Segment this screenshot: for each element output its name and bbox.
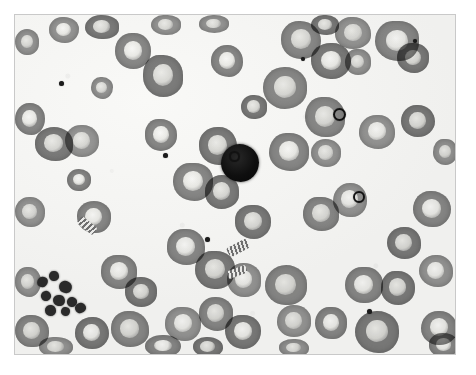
image-caption <box>0 0 1 1</box>
erythrocyte <box>397 43 429 73</box>
platelet <box>57 279 74 296</box>
erythrocyte <box>429 333 455 354</box>
erythrocyte <box>335 17 371 49</box>
erythrocyte <box>151 15 181 35</box>
inclusion-body <box>413 39 417 43</box>
inclusion-body <box>353 191 365 203</box>
erythrocyte <box>387 227 421 259</box>
erythrocyte <box>15 197 45 227</box>
erythrocyte <box>265 265 307 305</box>
erythrocyte <box>381 271 415 305</box>
erythrocyte <box>65 125 99 157</box>
inclusion-body <box>333 108 346 121</box>
image-viewport <box>0 0 476 375</box>
platelet <box>74 301 88 314</box>
erythrocyte <box>315 307 347 339</box>
erythrocyte <box>413 191 451 227</box>
erythrocyte <box>145 119 177 151</box>
erythrocyte <box>269 133 309 171</box>
erythrocyte <box>15 29 39 55</box>
inclusion-body <box>163 153 168 158</box>
erythrocyte <box>345 267 383 303</box>
erythrocyte <box>311 139 341 167</box>
erythrocyte <box>199 15 229 33</box>
rouleaux-stack <box>226 238 250 257</box>
inclusion-body <box>229 151 240 162</box>
erythrocyte <box>401 105 435 137</box>
erythrocyte <box>193 337 223 354</box>
erythrocyte <box>143 55 183 97</box>
inclusion-body <box>205 237 210 242</box>
erythrocyte <box>241 95 267 119</box>
erythrocyte <box>39 337 73 354</box>
inclusion-body <box>59 81 64 86</box>
erythrocyte <box>359 115 395 149</box>
erythrocyte <box>235 205 271 239</box>
erythrocyte <box>345 49 371 75</box>
platelet <box>48 270 59 281</box>
inclusion-body <box>367 309 372 314</box>
microscope-field <box>15 15 455 354</box>
erythrocyte <box>67 169 91 191</box>
erythrocyte <box>85 15 119 39</box>
erythrocyte <box>125 277 157 307</box>
erythrocyte <box>225 315 261 349</box>
erythrocyte <box>145 335 181 354</box>
erythrocyte <box>211 45 243 77</box>
platelet <box>39 289 52 302</box>
erythrocyte <box>111 311 149 347</box>
platelet <box>45 305 57 317</box>
erythrocyte <box>75 317 109 349</box>
erythrocyte <box>277 305 311 337</box>
erythrocyte <box>49 17 79 43</box>
micrograph-frame <box>14 14 456 355</box>
erythrocyte <box>355 311 399 353</box>
inclusion-body <box>301 57 305 61</box>
dark-nucleated-cell <box>221 144 259 182</box>
erythrocyte <box>419 255 453 287</box>
erythrocyte <box>263 67 307 109</box>
erythrocyte <box>279 339 309 354</box>
erythrocyte <box>91 77 113 99</box>
erythrocyte <box>433 139 455 165</box>
